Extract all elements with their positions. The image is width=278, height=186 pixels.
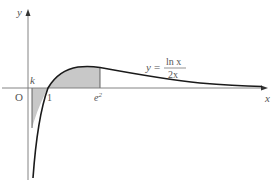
function-denominator: 2x — [168, 69, 178, 80]
function-graph: y x O k 1 e2 y = ln x 2x — [0, 0, 278, 186]
one-label: 1 — [47, 92, 52, 103]
origin-label: O — [15, 91, 23, 103]
function-numerator: ln x — [166, 56, 181, 67]
e2-label: e2 — [94, 91, 102, 103]
e2-exponent: 2 — [98, 91, 102, 99]
x-axis-arrow-icon — [261, 86, 268, 91]
svg-text:y: y — [145, 61, 151, 73]
k-label: k — [30, 74, 36, 86]
x-axis-label: x — [264, 92, 270, 104]
y-axis-arrow-icon — [26, 9, 31, 16]
svg-text:=: = — [154, 61, 160, 73]
y-axis-label: y — [16, 6, 22, 18]
